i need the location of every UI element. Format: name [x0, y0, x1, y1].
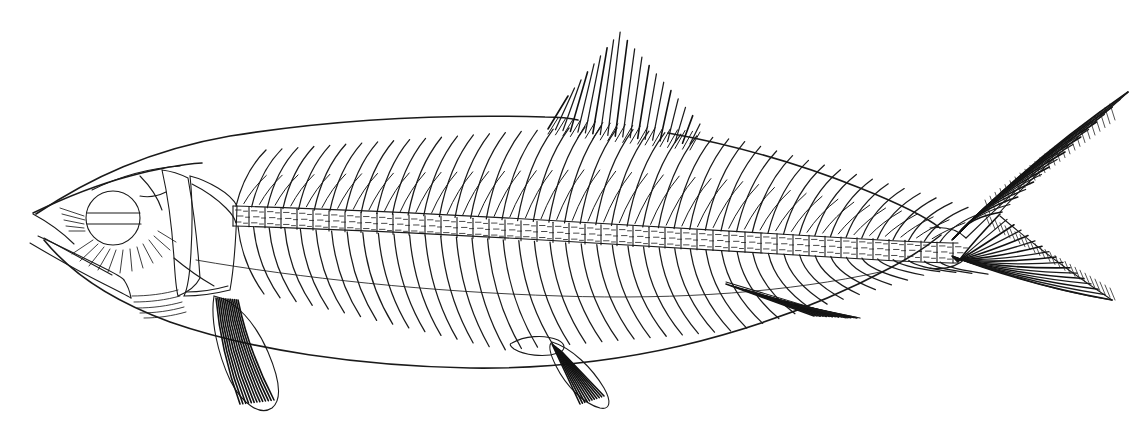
- fish-skeleton-illustration: [0, 0, 1142, 438]
- figure-root: [0, 0, 1142, 438]
